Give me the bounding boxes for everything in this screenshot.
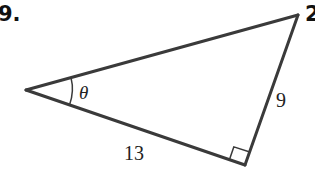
side-opposite-9 (245, 15, 298, 165)
angle-label-theta: θ (79, 82, 88, 103)
triangle-outline (26, 15, 298, 165)
triangle-figure: θ 9 13 (0, 0, 315, 171)
angle-arc-icon (70, 78, 73, 105)
side-label-adjacent: 13 (124, 142, 144, 164)
hypotenuse (26, 15, 298, 90)
side-label-opposite: 9 (276, 89, 286, 111)
